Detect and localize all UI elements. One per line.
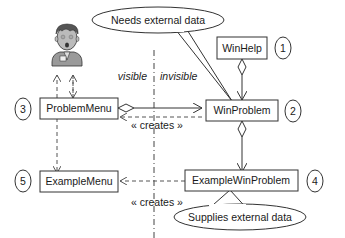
number-badge-3: 3 [15,98,31,120]
user-figure-icon [52,24,82,66]
invisible-label: invisible [160,70,198,82]
class-examplewinproblem-label: ExampleWinProblem [192,174,290,186]
class-winproblem-label: WinProblem [213,104,270,116]
callout-top-text: Needs external data [111,14,205,26]
class-examplemenu-label: ExampleMenu [45,175,112,187]
winproblem-creates-problemmenu: « creates » [120,117,202,131]
class-problemmenu[interactable]: ProblemMenu [40,98,118,119]
callout-supplies-external-data: Supplies external data [174,190,306,230]
svg-text:5: 5 [20,175,26,187]
class-examplewinproblem[interactable]: ExampleWinProblem [185,170,298,191]
class-problemmenu-label: ProblemMenu [46,102,112,114]
callout-bottom-text: Supplies external data [188,211,292,223]
creates-label-bottom: « creates » [131,196,183,208]
user-problemmenu-dependency [57,75,73,98]
winhelp-winproblem-aggregation [238,59,246,100]
class-winproblem[interactable]: WinProblem [206,100,278,121]
svg-text:4: 4 [312,175,318,187]
number-badge-4: 4 [307,170,323,192]
visible-label: visible [118,70,147,82]
svg-text:2: 2 [290,105,296,117]
svg-text:3: 3 [20,103,26,115]
creates-label-top: « creates » [131,119,183,131]
svg-text:1: 1 [280,42,286,54]
number-badge-1: 1 [275,37,291,59]
examplewinproblem-creates-examplemenu: « creates » [120,181,185,208]
winproblem-examplewinproblem-aggregation [238,121,246,172]
class-examplemenu[interactable]: ExampleMenu [40,171,118,192]
callout-needs-external-data: Needs external data [92,7,232,101]
number-badge-2: 2 [285,100,301,122]
number-badge-5: 5 [15,170,31,192]
class-winhelp-label: WinHelp [222,42,262,54]
class-winhelp[interactable]: WinHelp [217,37,267,59]
problemmenu-winproblem-aggregation [118,104,202,112]
